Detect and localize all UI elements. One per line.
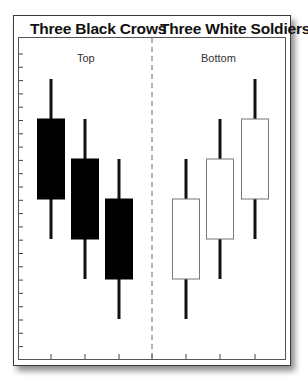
black-candle-body xyxy=(106,199,133,279)
title-three-white-soldiers: Three White Soldiers xyxy=(160,20,308,38)
chart-frame: Three Black Crows Three White Soldiers T… xyxy=(13,15,291,366)
white-candle-body xyxy=(173,199,200,279)
white-candle-body xyxy=(242,119,269,199)
candlestick-chart xyxy=(19,38,285,359)
label-bottom: Bottom xyxy=(201,52,236,64)
label-top: Top xyxy=(77,52,95,64)
black-candle-body xyxy=(38,119,65,199)
title-three-black-crows: Three Black Crows xyxy=(30,20,166,38)
white-candle-body xyxy=(207,159,234,239)
plot-area: Top Bottom xyxy=(18,37,286,360)
black-candle-body xyxy=(72,159,99,239)
